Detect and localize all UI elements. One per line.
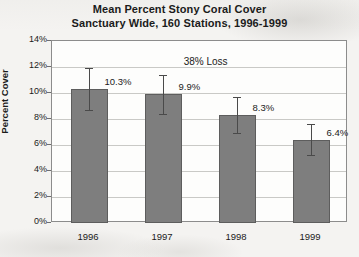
chart-title-line-2: Sanctuary Wide, 160 Stations, 1996-1999	[0, 17, 359, 31]
chart-screenshot: Mean Percent Stony Coral Cover Sanctuary…	[0, 0, 359, 257]
x-axis-tick-label: 1998	[211, 231, 261, 242]
bar-value-label: 6.4%	[327, 127, 349, 138]
y-axis-tick-label: 12%	[3, 60, 47, 70]
error-bar-cap-lower	[233, 133, 241, 134]
x-axis-tick-label: 1996	[63, 231, 113, 242]
y-axis-tick-mark	[47, 196, 51, 197]
y-axis-tick-mark	[47, 66, 51, 67]
y-axis-tick-label: 14%	[3, 34, 47, 44]
bar-value-label: 9.9%	[179, 81, 201, 92]
error-bar-cap-lower	[85, 110, 93, 111]
bar-value-label: 10.3%	[105, 76, 132, 87]
y-axis-tick-mark	[47, 170, 51, 171]
y-axis-tick-label: 4%	[3, 164, 47, 174]
error-bar-cap-upper	[233, 97, 241, 98]
y-axis-tick-label: 2%	[3, 190, 47, 200]
error-bar-line	[163, 75, 164, 114]
y-axis-tick-mark	[47, 118, 51, 119]
error-bar-cap-lower	[159, 114, 167, 115]
error-bar-cap-upper	[85, 68, 93, 69]
error-bar-line	[89, 68, 90, 110]
y-axis-tick-label: 6%	[3, 138, 47, 148]
error-bar-line	[311, 124, 312, 155]
error-bar-line	[237, 97, 238, 133]
error-bar-cap-lower	[307, 155, 315, 156]
chart-title-line-1: Mean Percent Stony Coral Cover	[0, 3, 359, 17]
x-axis-tick-label: 1997	[137, 231, 187, 242]
y-axis-tick-label: 0%	[3, 216, 47, 226]
y-axis-tick-label: 8%	[3, 112, 47, 122]
y-axis-tick-mark	[47, 144, 51, 145]
y-axis-tick-mark	[47, 92, 51, 93]
y-axis-tick-mark	[47, 222, 51, 223]
x-axis-tick-label: 1999	[285, 231, 335, 242]
y-axis-tick-mark	[47, 40, 51, 41]
error-bar-cap-upper	[307, 124, 315, 125]
y-axis-title: Percent Cover	[0, 69, 10, 133]
plot-area: 10.3%9.9%8.3%6.4% 38% Loss	[51, 40, 347, 222]
chart-title: Mean Percent Stony Coral Cover Sanctuary…	[0, 3, 359, 30]
y-axis-tick-label: 10%	[3, 86, 47, 96]
loss-annotation: 38% Loss	[184, 56, 228, 67]
bar-value-label: 8.3%	[253, 102, 275, 113]
error-bar-cap-upper	[159, 75, 167, 76]
